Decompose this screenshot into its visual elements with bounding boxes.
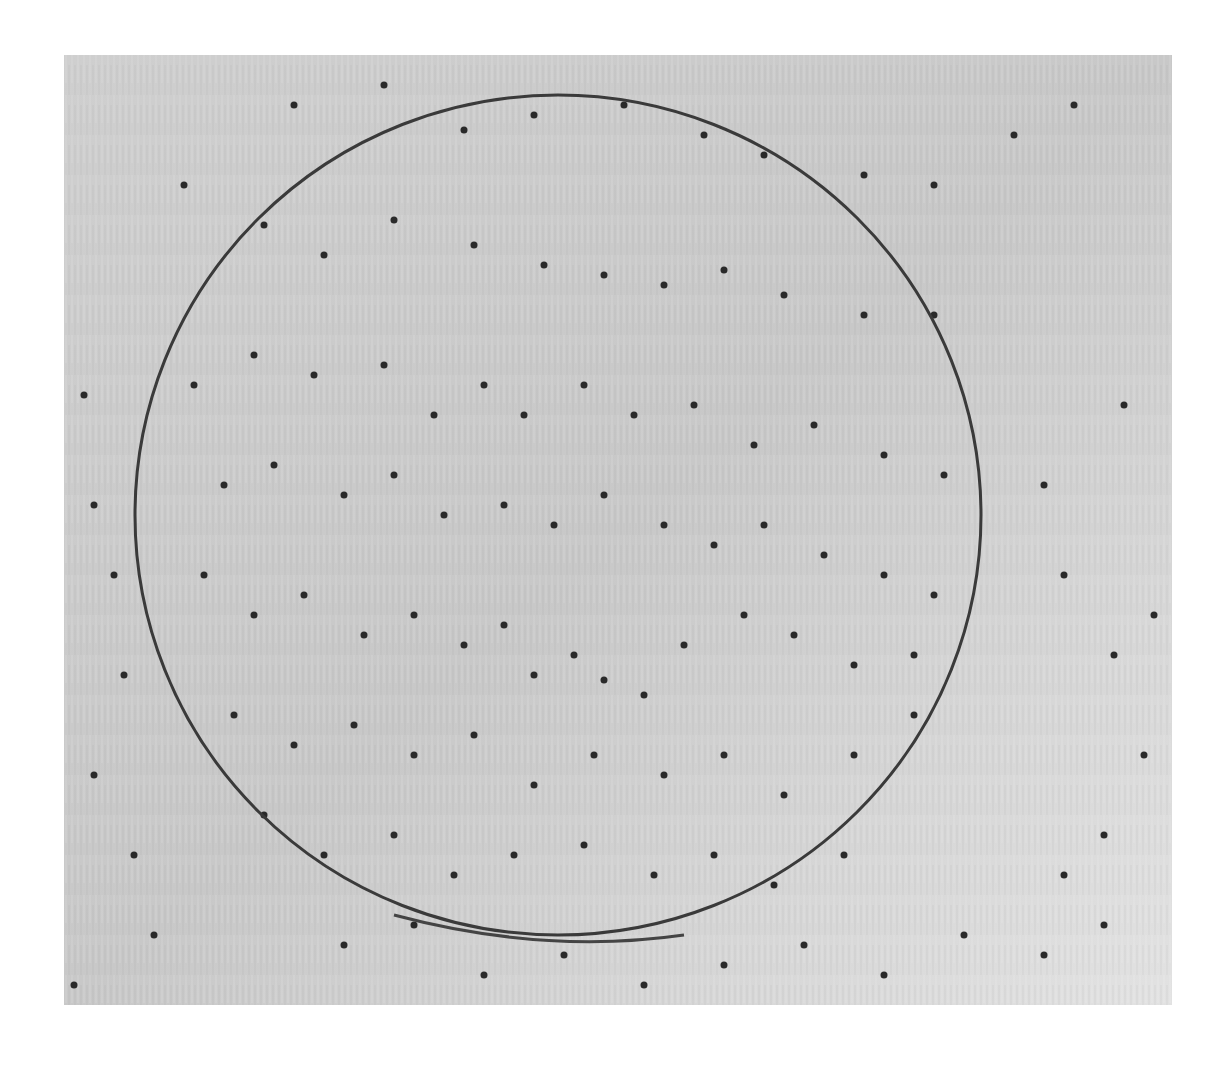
pit — [661, 772, 668, 779]
pit — [881, 452, 888, 459]
pit — [851, 752, 858, 759]
pit — [861, 312, 868, 319]
pit — [411, 612, 418, 619]
pit — [91, 772, 98, 779]
pit — [461, 127, 468, 134]
pit — [311, 372, 318, 379]
pit — [391, 217, 398, 224]
pit — [681, 642, 688, 649]
pit — [251, 352, 258, 359]
pit — [391, 472, 398, 479]
pit — [531, 672, 538, 679]
pit — [641, 982, 648, 989]
pit — [841, 852, 848, 859]
pit — [461, 642, 468, 649]
pit — [561, 952, 568, 959]
pit — [931, 182, 938, 189]
pit — [571, 652, 578, 659]
pit — [721, 267, 728, 274]
pit — [71, 982, 78, 989]
pit — [711, 542, 718, 549]
pit — [551, 522, 558, 529]
pit — [81, 392, 88, 399]
pit — [861, 172, 868, 179]
pit — [521, 412, 528, 419]
pit — [641, 692, 648, 699]
pit — [261, 222, 268, 229]
pit — [1061, 572, 1068, 579]
pit — [431, 412, 438, 419]
pit — [761, 522, 768, 529]
pit — [791, 632, 798, 639]
pit — [541, 262, 548, 269]
pit — [881, 972, 888, 979]
pit — [651, 872, 658, 879]
pit — [691, 402, 698, 409]
pit — [231, 712, 238, 719]
pit — [111, 572, 118, 579]
pit — [781, 792, 788, 799]
surface-texture — [64, 55, 1172, 1005]
pit — [701, 132, 708, 139]
pit — [661, 522, 668, 529]
pit — [721, 752, 728, 759]
pit — [811, 422, 818, 429]
pit — [851, 662, 858, 669]
pit — [751, 442, 758, 449]
pit — [1041, 482, 1048, 489]
pit — [471, 732, 478, 739]
pit — [601, 677, 608, 684]
pit — [1121, 402, 1128, 409]
pit — [631, 412, 638, 419]
pit — [1061, 872, 1068, 879]
pit — [1141, 752, 1148, 759]
pit — [411, 752, 418, 759]
pit — [451, 872, 458, 879]
pit — [1101, 922, 1108, 929]
pit — [591, 752, 598, 759]
pit — [321, 252, 328, 259]
micrograph-canvas — [64, 55, 1172, 1005]
pit — [711, 852, 718, 859]
pit — [1041, 952, 1048, 959]
pit — [471, 242, 478, 249]
pit — [361, 632, 368, 639]
pit — [881, 572, 888, 579]
pit — [501, 622, 508, 629]
pit — [1111, 652, 1118, 659]
pit — [621, 102, 628, 109]
pit — [931, 592, 938, 599]
pit — [601, 492, 608, 499]
pit — [441, 512, 448, 519]
pit — [321, 852, 328, 859]
pit — [1071, 102, 1078, 109]
pit — [271, 462, 278, 469]
pit — [151, 932, 158, 939]
pit — [351, 722, 358, 729]
pit — [581, 382, 588, 389]
pit — [191, 382, 198, 389]
pit — [91, 502, 98, 509]
pit — [1151, 612, 1158, 619]
pit — [341, 492, 348, 499]
pit — [481, 972, 488, 979]
pit — [251, 612, 258, 619]
pit — [201, 572, 208, 579]
pit — [341, 942, 348, 949]
pit — [581, 842, 588, 849]
pit — [121, 672, 128, 679]
pit — [721, 962, 728, 969]
pit — [511, 852, 518, 859]
pit — [221, 482, 228, 489]
pit — [481, 382, 488, 389]
pit — [911, 652, 918, 659]
pit — [131, 852, 138, 859]
pit — [391, 832, 398, 839]
pit — [381, 82, 388, 89]
pit — [531, 112, 538, 119]
pit — [601, 272, 608, 279]
pit — [381, 362, 388, 369]
pit — [961, 932, 968, 939]
pit — [411, 922, 418, 929]
pit — [911, 712, 918, 719]
